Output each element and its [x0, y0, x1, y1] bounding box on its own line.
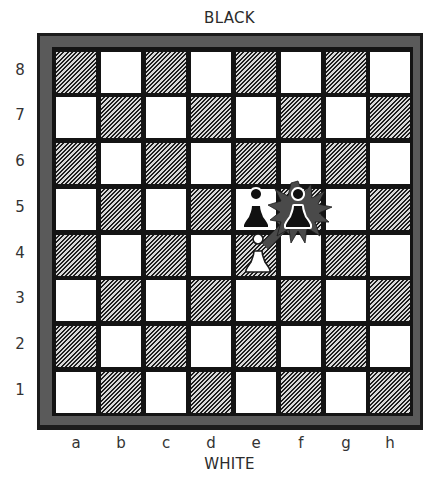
black-pawn-e5[interactable] [244, 189, 268, 227]
black-pawn-icon [244, 189, 268, 227]
piece-overlay [0, 0, 443, 488]
